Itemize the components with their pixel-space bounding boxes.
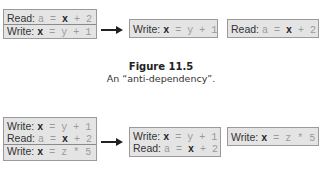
line-label: Write: [7, 25, 34, 37]
figure-caption-title: Figure 11.5 [0, 61, 322, 72]
code-line: Write: x = z * 5 [4, 144, 96, 157]
code-line: Write: x = z * 5 [228, 131, 318, 143]
code-text: x = y + 1 [37, 27, 91, 38]
bottom-result-box-1: Write: x = y + 1 Read: a = x + 2 [129, 127, 221, 157]
top-result-box-2: Read: a = x + 2 [227, 19, 319, 38]
line-label: Write: [133, 23, 160, 35]
arrow-right-icon [101, 141, 121, 143]
code-line: Write: x = y + 1 [4, 24, 96, 37]
top-result-box-1: Write: x = y + 1 [129, 19, 218, 38]
code-text: a = x + 2 [164, 144, 218, 155]
bottom-result-box-2: Write: x = z * 5 [227, 127, 319, 146]
line-label: Write: [7, 145, 34, 157]
code-text: x = z * 5 [261, 133, 315, 144]
arrow-right-icon [101, 29, 121, 31]
line-label: Write: [231, 131, 258, 143]
figure-caption-text: An “anti-dependency”. [0, 73, 322, 84]
code-text: x = z * 5 [37, 147, 91, 158]
code-line: Read: a = x + 2 [4, 12, 96, 24]
code-text: x = y + 1 [163, 25, 217, 36]
line-label: Write: [133, 130, 160, 142]
code-line: Write: x = y + 1 [4, 120, 96, 132]
line-label: Read: [231, 23, 259, 35]
code-text: a = x + 2 [262, 25, 316, 36]
code-text: a = x + 2 [38, 14, 92, 25]
top-source-box: Read: a = x + 2 Write: x = y + 1 [3, 9, 97, 39]
line-label: Read: [133, 142, 161, 154]
line-label: Read: [7, 132, 35, 144]
line-label: Read: [7, 12, 35, 24]
code-line: Read: a = x + 2 [130, 142, 220, 154]
code-line: Write: x = y + 1 [130, 130, 220, 142]
bottom-source-box: Write: x = y + 1 Read: a = x + 2 Write: … [3, 117, 97, 161]
line-label: Write: [7, 120, 34, 132]
code-line: Read: a = x + 2 [4, 132, 96, 144]
code-text: a = x + 2 [38, 134, 92, 145]
code-line: Write: x = y + 1 [130, 23, 217, 35]
code-line: Read: a = x + 2 [228, 23, 318, 35]
